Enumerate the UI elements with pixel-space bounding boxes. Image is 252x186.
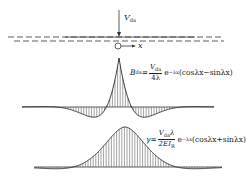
formula-gamma-den: 2EI: [159, 140, 171, 148]
formula-b-num-sub: da: [155, 66, 161, 72]
formula-b-da: Bda = Vda 4λ e−λx (cosλx−sinλx): [130, 63, 233, 82]
diagram-canvas: [0, 0, 252, 186]
formula-gamma: γ = Vdaλ 2EIR e−λx (cosλx+sinλx): [146, 129, 246, 150]
formula-b-fraction: Vda 4λ: [149, 63, 162, 82]
formula-b-equals: =: [142, 69, 148, 77]
formula-gamma-equals: =: [150, 136, 156, 144]
load-subscript: da: [130, 17, 136, 23]
x-axis-label: x: [138, 42, 143, 50]
formula-gamma-exp-power: −λx: [182, 137, 192, 142]
formula-gamma-den-sub: R: [171, 143, 175, 149]
formula-b-exp-power: −λx: [169, 70, 179, 75]
formula-gamma-num-tail: λ: [170, 129, 174, 137]
formula-gamma-fraction: Vdaλ 2EIR: [158, 129, 176, 150]
formula-b-den: 4λ: [151, 74, 160, 82]
load-label: Vda: [124, 14, 136, 23]
beam: [8, 37, 224, 41]
formula-b-trig: (cosλx−sinλx): [179, 69, 233, 77]
formula-gamma-trig: (cosλx+sinλx): [192, 136, 246, 144]
origin-icon: [115, 43, 136, 49]
load-arrow-icon: [117, 10, 121, 37]
